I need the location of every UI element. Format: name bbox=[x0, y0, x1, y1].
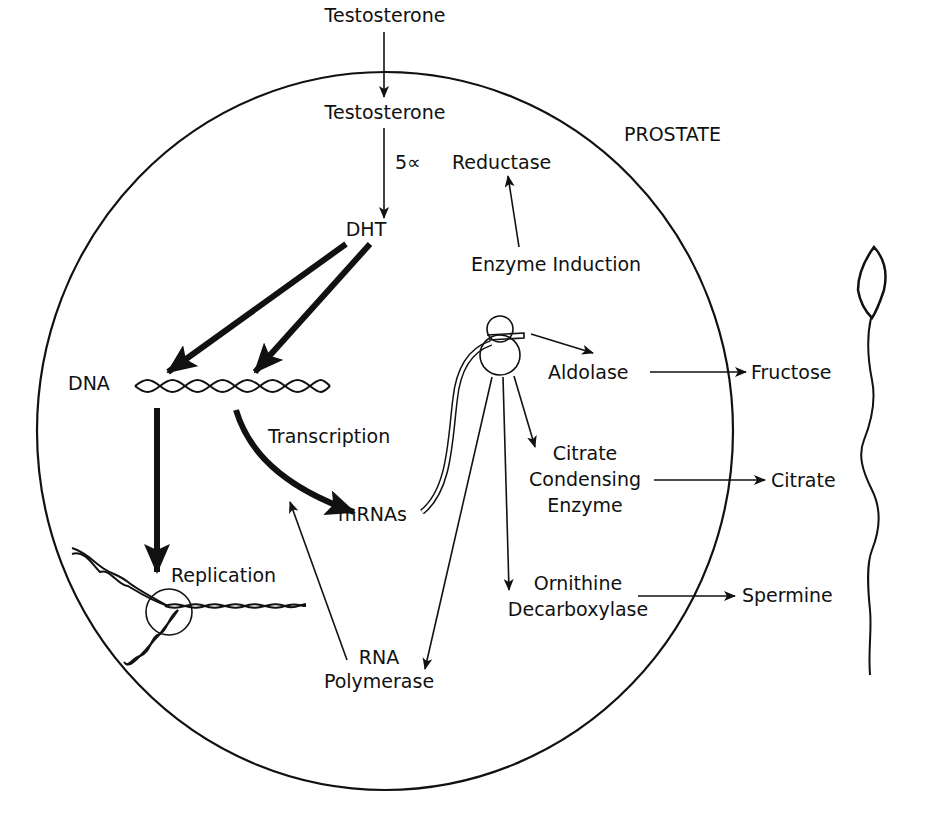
dht-label: DHT bbox=[346, 218, 387, 240]
arrow-dht-to-dna-right bbox=[255, 244, 370, 372]
citrate-condensing-label-3: Enzyme bbox=[547, 494, 622, 516]
citrate-condensing-label-1: Citrate bbox=[553, 442, 618, 464]
arrow-dht-to-dna-left bbox=[168, 244, 346, 372]
citrate-label: Citrate bbox=[771, 469, 836, 491]
arrow-ribosome-to-polymerase bbox=[425, 377, 492, 669]
ornithine-label-2: Decarboxylase bbox=[508, 598, 648, 620]
replication-label: Replication bbox=[171, 564, 276, 586]
arrow-induction-to-reductase bbox=[508, 176, 519, 247]
dna-helix-icon bbox=[135, 380, 330, 392]
five-alpha-label: 5∝ bbox=[395, 151, 421, 173]
aldolase-label: Aldolase bbox=[548, 361, 628, 383]
testosterone-inside-label: Testosterone bbox=[324, 101, 446, 123]
mrnas-label: mRNAs bbox=[338, 503, 407, 525]
arrow-polymerase-to-mrna bbox=[290, 502, 347, 660]
transcription-label: Transcription bbox=[267, 425, 390, 447]
rna-polymerase-label-2: Polymerase bbox=[324, 670, 434, 692]
enzyme-induction-label: Enzyme Induction bbox=[471, 253, 641, 275]
arrow-ribosome-to-citrate-enzyme bbox=[514, 376, 535, 447]
prostate-label: PROSTATE bbox=[624, 123, 721, 145]
spermine-label: Spermine bbox=[742, 584, 833, 606]
prostate-pathway-diagram: Testosterone Testosterone 5∝ Reductase P… bbox=[0, 0, 925, 823]
reductase-label: Reductase bbox=[452, 151, 551, 173]
fructose-label: Fructose bbox=[751, 361, 832, 383]
rna-polymerase-label-1: RNA bbox=[359, 646, 399, 668]
ornithine-label-1: Ornithine bbox=[534, 572, 622, 594]
arrow-ribosome-to-aldolase bbox=[531, 334, 593, 353]
sperm-cell-icon bbox=[858, 247, 886, 675]
citrate-condensing-label-2: Condensing bbox=[529, 468, 641, 490]
testosterone-outside-label: Testosterone bbox=[324, 4, 446, 26]
dna-label: DNA bbox=[68, 372, 110, 394]
arrow-ribosome-to-ornithine bbox=[503, 377, 509, 590]
